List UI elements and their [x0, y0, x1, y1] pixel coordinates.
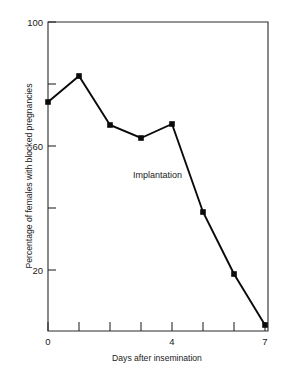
y-tick-label-60: 60 — [32, 141, 43, 152]
y-axis-ticks — [48, 22, 56, 270]
x-tick-label-0: 0 — [45, 336, 50, 347]
x-axis-title: Days after insemination — [112, 353, 202, 363]
chart-figure: 100 60 20 0 4 7 Days after insemination … — [0, 0, 286, 371]
y-axis-title: Percentage of females with blocked pregn… — [24, 84, 34, 269]
data-point-markers — [45, 73, 268, 328]
annotation-implantation: Implantation — [133, 170, 182, 180]
x-axis-ticks — [48, 322, 265, 331]
x-tick-label-7: 7 — [262, 336, 267, 347]
data-series-line — [48, 76, 265, 325]
line-chart-svg: 100 60 20 0 4 7 Days after insemination … — [0, 0, 286, 371]
y-tick-label-100: 100 — [27, 17, 43, 28]
x-tick-label-4: 4 — [169, 336, 174, 347]
y-tick-label-20: 20 — [32, 265, 43, 276]
